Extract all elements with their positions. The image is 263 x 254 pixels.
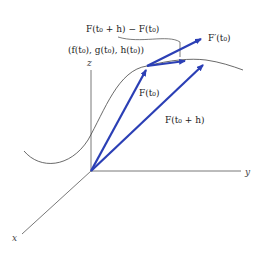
tangent-label: F′(t₀) (208, 33, 231, 43)
x-axis-label: x (12, 233, 17, 243)
vectors (91, 39, 203, 171)
axes: z y x (12, 58, 251, 243)
position-t0-label: F(t₀) (139, 88, 160, 98)
secant-label: F(t₀ + h) − F(t₀) (86, 24, 159, 34)
point-label: (f(t₀), g(t₀), h(t₀)) (68, 45, 144, 55)
space-curve (24, 59, 243, 163)
x-axis (22, 171, 91, 234)
position-t0h-label: F(t₀ + h) (165, 115, 205, 125)
y-axis-label: y (244, 167, 251, 177)
z-axis-label: z (86, 58, 92, 68)
vector-diagram: z y x F(t₀ + h) − F(t₀) (f(t₀), g(t₀), h… (0, 0, 263, 254)
